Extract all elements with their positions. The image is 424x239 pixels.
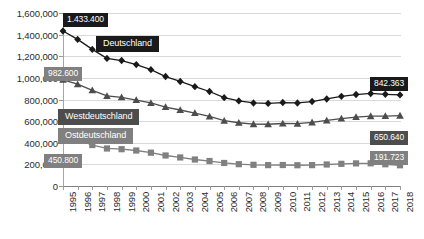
annotation-start-ostdeutschland: 450.800	[44, 154, 82, 168]
data-point	[279, 99, 286, 106]
data-point	[221, 160, 227, 166]
data-point	[353, 91, 360, 98]
data-point	[104, 55, 111, 62]
data-point	[133, 147, 139, 153]
data-point	[382, 91, 389, 98]
data-point	[206, 88, 213, 95]
data-point	[324, 161, 330, 167]
data-point	[397, 91, 404, 98]
data-point	[148, 66, 155, 73]
data-point	[60, 27, 67, 34]
data-point	[89, 46, 96, 53]
data-point	[177, 78, 184, 85]
series-label-ostdeutschland: Ostdeutschland	[58, 128, 133, 144]
annotation-end-deutschland: 842.363	[370, 77, 408, 91]
data-point	[133, 61, 140, 68]
data-point	[250, 99, 257, 106]
data-point	[192, 156, 198, 162]
data-point	[294, 162, 300, 168]
annotation-start-westdeutschland: 982.600	[44, 67, 82, 81]
series-label-deutschland: Deutschland	[96, 36, 159, 52]
data-point	[367, 90, 374, 97]
series-label-westdeutschland: Westdeutschland	[58, 109, 139, 125]
data-point	[353, 160, 359, 166]
line-chart: 0200,000400,000600,000800,0001,000,0001,…	[0, 0, 424, 239]
data-point	[221, 94, 228, 101]
data-point	[177, 154, 183, 160]
data-point	[294, 99, 301, 106]
data-point	[323, 95, 330, 102]
data-point	[265, 100, 272, 107]
data-point	[89, 87, 97, 94]
data-point	[104, 145, 110, 151]
data-point	[206, 158, 212, 164]
annotation-end-ostdeutschland: 191.723	[370, 151, 408, 165]
data-point	[74, 36, 81, 43]
annotation-end-westdeutschland: 650.640	[370, 131, 408, 145]
data-point	[338, 161, 344, 167]
annotation-start-deutschland: 1.433.400	[63, 13, 108, 27]
data-point	[162, 73, 169, 80]
data-point	[118, 57, 125, 64]
data-point	[235, 97, 242, 104]
data-point	[250, 162, 256, 168]
data-point	[162, 152, 168, 158]
data-point	[280, 162, 286, 168]
data-point	[191, 83, 198, 90]
data-point	[236, 161, 242, 167]
data-point	[309, 162, 315, 168]
data-point	[338, 93, 345, 100]
data-point	[119, 146, 125, 152]
data-point	[265, 162, 271, 168]
data-point	[148, 150, 154, 156]
data-point	[309, 98, 316, 105]
